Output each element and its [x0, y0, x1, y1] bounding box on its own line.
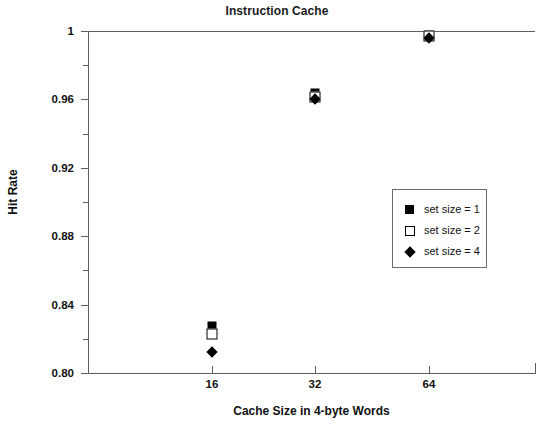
y-axis-title: Hit Rate [6, 132, 20, 252]
legend-item-set-size-2: set size = 2 [403, 223, 480, 237]
y-tick-label: 1 [30, 25, 74, 37]
legend-label: set size = 4 [424, 245, 480, 257]
y-tick-label: 0.80 [30, 367, 74, 379]
x-axis-title: Cache Size in 4-byte Words [88, 404, 535, 418]
chart-title: Instruction Cache [0, 4, 554, 18]
filled-diamond-icon [403, 244, 417, 258]
x-tick-label: 32 [285, 378, 345, 390]
legend-item-set-size-1: set size = 1 [403, 202, 480, 216]
data-point-open-square [207, 328, 218, 339]
x-tick-label: 64 [399, 378, 459, 390]
legend-label: set size = 2 [424, 224, 480, 236]
x-tick [429, 366, 430, 374]
x-tick [315, 366, 316, 374]
y-tick-major [81, 305, 89, 306]
y-tick-minor [83, 65, 89, 66]
y-tick-minor [83, 270, 89, 271]
x-tick [212, 366, 213, 374]
axis-line-top [88, 31, 535, 32]
y-tick-major [81, 236, 89, 237]
instruction-cache-chart: Instruction Cache 10.960.920.880.840.80 … [0, 0, 554, 432]
y-tick-label: 0.96 [30, 93, 74, 105]
filled-square-icon [403, 202, 417, 216]
y-tick-major [81, 99, 89, 100]
open-square-icon [403, 223, 417, 237]
y-tick-label: 0.84 [30, 299, 74, 311]
y-tick-minor [83, 202, 89, 203]
legend: set size = 1 set size = 2 set size = 4 [392, 189, 487, 268]
x-axis-line [88, 373, 535, 374]
data-point-filled-diamond [206, 347, 217, 358]
y-tick-minor [83, 339, 89, 340]
x-axis-right-end-tick [535, 363, 536, 374]
y-tick-major [81, 168, 89, 169]
x-tick-label: 16 [182, 378, 242, 390]
y-tick-major [81, 373, 89, 374]
y-tick-minor [83, 134, 89, 135]
legend-item-set-size-4: set size = 4 [403, 244, 480, 258]
y-tick-major [81, 31, 89, 32]
legend-label: set size = 1 [424, 203, 480, 215]
y-tick-label: 0.88 [30, 230, 74, 242]
y-tick-label: 0.92 [30, 162, 74, 174]
